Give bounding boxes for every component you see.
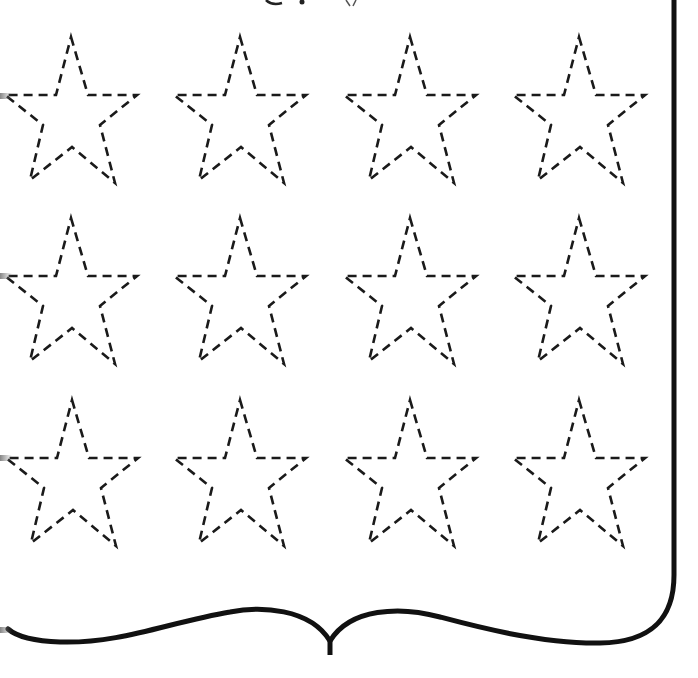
scan-artifact [0,627,12,633]
dashed-star-icon [344,400,476,546]
clipped-heading-fragments [266,0,356,6]
dashed-star-icon [513,400,645,546]
dashed-star-icon [6,400,138,546]
dashed-star-icon [174,218,306,364]
dashed-star-icon [5,218,137,364]
dashed-star-icon [513,218,645,364]
dashed-star-icon [344,218,476,364]
star-grid [5,37,645,546]
scan-artifact [0,455,12,461]
scan-artifact [0,273,12,279]
dashed-star-icon [344,37,476,183]
dashed-star-icon [174,400,306,546]
dashed-star-icon [174,37,306,183]
dashed-star-icon [5,37,137,183]
frame-border [8,0,674,643]
dashed-star-icon [513,37,645,183]
worksheet-canvas [0,0,698,678]
scan-artifact [0,93,12,99]
